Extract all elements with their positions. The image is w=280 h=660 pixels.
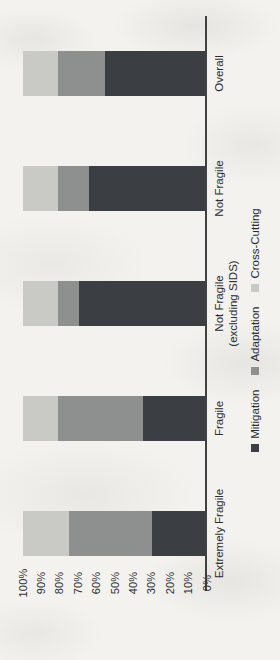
bar-slot-not-fragile [23, 246, 205, 361]
segment-cross-cutting [23, 396, 58, 441]
segment-cross-cutting [23, 51, 58, 96]
bar-slot-not-fragile [23, 131, 205, 246]
legend-label: Adaptation [249, 307, 261, 362]
legend-swatch-icon [251, 444, 259, 452]
segment-mitigation [143, 396, 205, 441]
category-label-extremely-fragile: Extremely Fragile [213, 476, 240, 591]
segment-mitigation [105, 51, 205, 96]
y-tick-label-30: 30% [144, 555, 159, 611]
segment-cross-cutting [23, 281, 58, 326]
segment-adaptation [58, 166, 89, 211]
legend-label: Cross-Cutting [249, 208, 261, 278]
segment-cross-cutting [23, 166, 58, 211]
legend-label: Mitigation [249, 390, 261, 439]
category-label-not-fragile: Not Fragile (excluding SIDS) [213, 246, 240, 361]
segment-cross-cutting [23, 511, 69, 556]
segment-mitigation [152, 511, 205, 556]
segment-adaptation [58, 51, 105, 96]
y-tick-label-50: 50% [108, 555, 123, 611]
segment-adaptation [69, 511, 153, 556]
legend-item-mitigation: Mitigation [249, 390, 261, 452]
y-tick-label-20: 20% [163, 555, 178, 611]
y-tick-label-0: 0% [200, 555, 215, 611]
segment-adaptation [58, 281, 80, 326]
stacked-bar-overall [23, 51, 205, 96]
stacked-bar-chart: Extremely FragileFragileNot Fragile (exc… [0, 0, 280, 660]
segment-mitigation [89, 166, 205, 211]
scanned-page-background: Extremely FragileFragileNot Fragile (exc… [0, 0, 280, 660]
legend-swatch-icon [251, 367, 259, 375]
stacked-bar-not-fragile [23, 166, 205, 211]
legend-item-adaptation: Adaptation [249, 307, 261, 375]
y-tick-label-100: 100% [16, 555, 31, 611]
segment-adaptation [58, 396, 144, 441]
bar-slot-fragile [23, 361, 205, 476]
legend-swatch-icon [251, 284, 259, 292]
y-tick-label-70: 70% [71, 555, 86, 611]
y-tick-label-10: 10% [181, 555, 196, 611]
y-tick-label-40: 40% [126, 555, 141, 611]
y-tick-label-80: 80% [52, 555, 67, 611]
stacked-bar-not-fragile [23, 281, 205, 326]
plot-area [23, 16, 207, 591]
stacked-bar-extremely-fragile [23, 511, 205, 556]
x-axis-labels: Extremely FragileFragileNot Fragile (exc… [213, 16, 240, 591]
legend-item-cross-cutting: Cross-Cutting [249, 208, 261, 291]
segment-mitigation [79, 281, 205, 326]
category-label-not-fragile: Not Fragile [213, 131, 240, 246]
category-label-fragile: Fragile [213, 361, 240, 476]
y-tick-label-90: 90% [34, 555, 49, 611]
stacked-bar-fragile [23, 396, 205, 441]
category-label-overall: Overall [213, 16, 240, 131]
y-tick-label-60: 60% [89, 555, 104, 611]
legend: MitigationAdaptationCross-Cutting [249, 0, 261, 660]
bar-slot-overall [23, 16, 205, 131]
